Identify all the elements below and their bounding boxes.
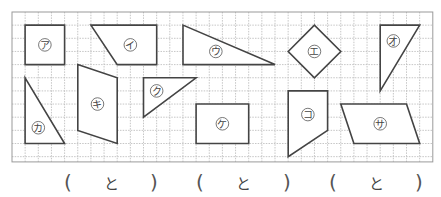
shape-label: ウ [211,46,221,57]
shape-10 [288,91,327,157]
answer-3-open-paren: ( [329,170,337,194]
shape-label: カ [33,123,43,134]
shape-label: ク [152,86,162,97]
answer-1-open-paren: ( [64,170,72,194]
answer-2-open-paren: ( [196,170,204,194]
shape-3 [183,25,275,65]
shape-6 [25,78,65,144]
answer-3-to: と [369,172,384,196]
shape-8 [144,78,197,117]
answer-3-close-paren: ) [415,170,423,194]
shape-grid-figure: アイウエオカキクケコサ [0,0,441,170]
answer-row: ( と ) ( と ) ( と ) [0,170,441,197]
shape-label: コ [303,109,313,120]
shape-label: ア [40,40,50,51]
shape-label: エ [309,46,319,57]
shape-label: サ [375,119,385,130]
answer-1-close-paren: ) [150,170,158,194]
answer-2-to: と [236,172,251,196]
answer-2-close-paren: ) [283,170,291,194]
shape-label: キ [92,99,102,110]
shape-label: イ [125,40,135,51]
shape-label: オ [388,36,398,47]
shape-5 [380,25,420,91]
answer-1-to: と [104,172,119,196]
shape-label: ケ [217,119,227,130]
